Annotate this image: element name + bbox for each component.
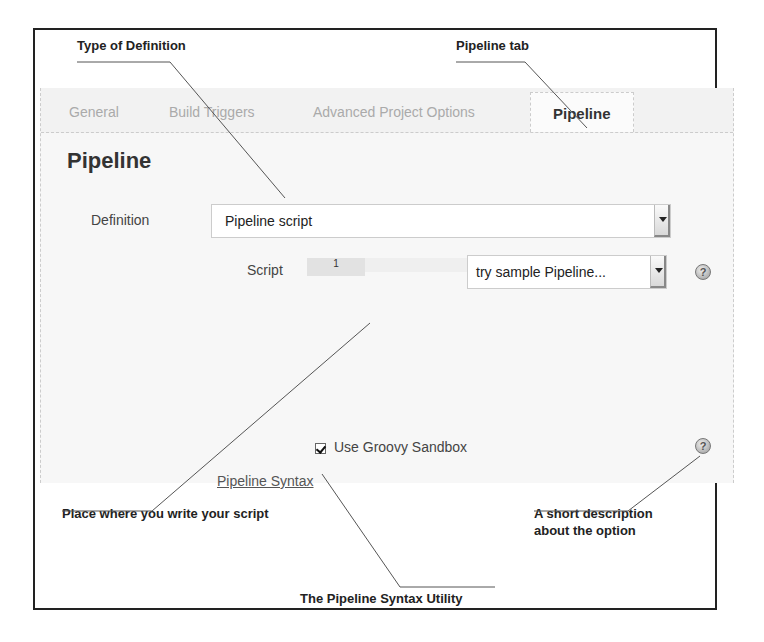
definition-select[interactable]: Pipeline script [211,204,671,238]
pipeline-syntax-link[interactable]: Pipeline Syntax [217,473,314,489]
annotation-script-place: Place where you write your script [62,506,269,521]
sandbox-checkbox[interactable] [315,443,326,454]
annotation-pipeline-tab: Pipeline tab [456,38,529,53]
help-icon[interactable]: ? [695,264,711,280]
section-title: Pipeline [67,148,151,174]
help-icon[interactable]: ? [695,438,711,454]
sample-pipeline-select-value: try sample Pipeline... [476,264,606,280]
annotation-syntax-utility: The Pipeline Syntax Utility [300,591,463,606]
tab-bar: General Build Triggers Advanced Project … [41,88,733,133]
tab-advanced-project-options[interactable]: Advanced Project Options [313,104,475,120]
definition-label: Definition [91,212,149,228]
chevron-down-icon [650,256,666,288]
chevron-down-icon [654,205,670,237]
annotation-short-description-2: about the option [534,523,636,538]
tab-pipeline[interactable]: Pipeline [530,92,634,132]
tab-build-triggers[interactable]: Build Triggers [169,104,255,120]
jenkins-config-panel: General Build Triggers Advanced Project … [40,88,734,483]
annotation-short-description-1: A short description [534,506,653,521]
annotation-type-of-definition: Type of Definition [77,38,186,53]
sandbox-label: Use Groovy Sandbox [334,439,467,455]
script-label: Script [247,262,283,278]
tab-general[interactable]: General [69,104,119,120]
script-editor-gutter: 1 [307,258,365,276]
sample-pipeline-select[interactable]: try sample Pipeline... [467,255,667,289]
definition-select-value: Pipeline script [225,213,312,229]
line-number: 1 [333,258,339,269]
